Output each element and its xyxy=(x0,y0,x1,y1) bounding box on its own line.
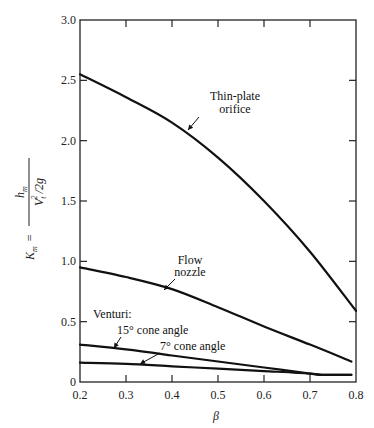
y-tick-label: 2.5 xyxy=(61,73,76,87)
svg-text:Km=: Km= xyxy=(23,234,39,261)
svg-text:hm: hm xyxy=(13,186,29,198)
x-axis-title: β xyxy=(212,409,219,423)
x-tick-label: 0.6 xyxy=(257,388,272,402)
label-venturi-15-deg: 15° cone angle xyxy=(117,323,188,337)
arrowhead-icon xyxy=(114,342,119,348)
y-tick-label: 3.0 xyxy=(61,13,76,27)
x-tick-label: 0.7 xyxy=(303,388,318,402)
label-venturi-7-deg: 7° cone angle xyxy=(160,339,225,353)
label-thin-plate-orifice-line1: Thin-plate xyxy=(210,89,260,103)
x-tick-label: 0.8 xyxy=(349,388,364,402)
x-tick-label: 0.3 xyxy=(119,388,134,402)
y-tick-label: 0.5 xyxy=(61,315,76,329)
y-tick-label: 1.5 xyxy=(61,194,76,208)
x-tick-label: 0.2 xyxy=(73,388,88,402)
y-axis-formula: Km=hmVt2/2g xyxy=(13,158,48,261)
curve-venturi-7-cone-angle xyxy=(80,363,351,375)
x-tick-label: 0.5 xyxy=(211,388,226,402)
curve-annotations: Thin-plateorificeFlownozzleVenturi:15° c… xyxy=(93,89,260,364)
loss-coefficient-chart: Km=hmVt2/2g 0.20.30.40.50.60.70.800.51.0… xyxy=(0,0,374,428)
label-thin-plate-orifice-line2: orifice xyxy=(219,102,250,116)
label-flow-nozzle-line2: nozzle xyxy=(174,265,205,279)
svg-text:Vt2/2g: Vt2/2g xyxy=(30,178,48,206)
y-axis-title: Km=hmVt2/2g xyxy=(13,158,48,261)
y-tick-label: 2.0 xyxy=(61,134,76,148)
y-tick-label: 1.0 xyxy=(61,254,76,268)
label-venturi: Venturi: xyxy=(93,307,132,321)
y-tick-label: 0 xyxy=(70,375,76,389)
x-tick-label: 0.4 xyxy=(165,388,180,402)
